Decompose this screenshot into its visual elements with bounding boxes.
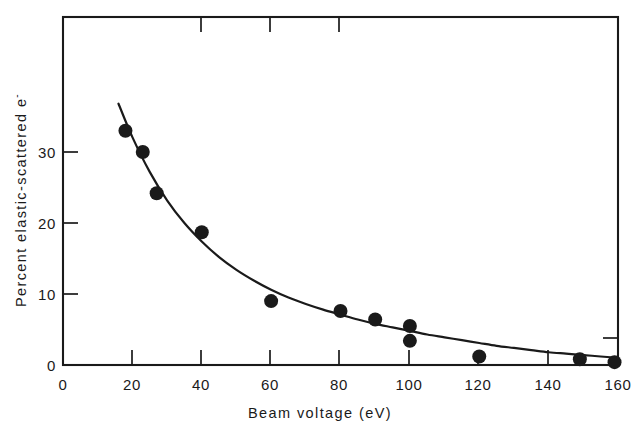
data-point xyxy=(264,294,278,308)
x-tick-label-20: 20 xyxy=(123,376,141,393)
data-point xyxy=(195,225,209,239)
x-tick-label-100: 100 xyxy=(396,376,423,393)
x-tick-label-40: 40 xyxy=(192,376,210,393)
x-tick-label-80: 80 xyxy=(330,376,348,393)
data-point xyxy=(403,334,417,348)
y-tick-label-0: 0 xyxy=(47,357,56,374)
y-axis-title: Percent elastic-scattered e xyxy=(13,98,29,307)
data-point xyxy=(403,319,417,333)
data-point-group xyxy=(118,124,621,369)
x-tick-label-160: 160 xyxy=(605,376,632,393)
y-tick-label-10: 10 xyxy=(38,286,56,303)
y-axis-ticks xyxy=(63,152,78,365)
scatter-plot: 30 20 10 0 0 20 40 60 80 100 120 140 160… xyxy=(0,0,644,430)
data-point xyxy=(118,124,132,138)
y-axis-title-group: Percent elastic-scattered e- xyxy=(11,93,29,307)
x-tick-labels: 0 20 40 60 80 100 120 140 160 xyxy=(59,376,632,393)
data-point xyxy=(368,313,382,327)
data-point xyxy=(573,352,587,366)
data-point xyxy=(608,355,622,369)
data-point xyxy=(472,349,486,363)
data-point xyxy=(334,304,348,318)
y-tick-labels: 30 20 10 0 xyxy=(38,144,56,374)
chart-figure: 30 20 10 0 0 20 40 60 80 100 120 140 160… xyxy=(0,0,644,430)
svg-text:Percent elastic-scattered e-: Percent elastic-scattered e- xyxy=(11,93,29,307)
x-axis-title: Beam voltage (eV) xyxy=(248,405,392,421)
x-tick-label-0: 0 xyxy=(59,376,68,393)
x-tick-label-140: 140 xyxy=(535,376,562,393)
top-axis-ticks xyxy=(201,17,339,32)
data-point xyxy=(150,186,164,200)
x-tick-label-120: 120 xyxy=(465,376,492,393)
y-tick-label-30: 30 xyxy=(38,144,56,161)
data-point xyxy=(136,145,150,159)
x-tick-label-60: 60 xyxy=(261,376,279,393)
y-tick-label-20: 20 xyxy=(38,215,56,232)
y-axis-title-superscript: - xyxy=(11,93,22,98)
